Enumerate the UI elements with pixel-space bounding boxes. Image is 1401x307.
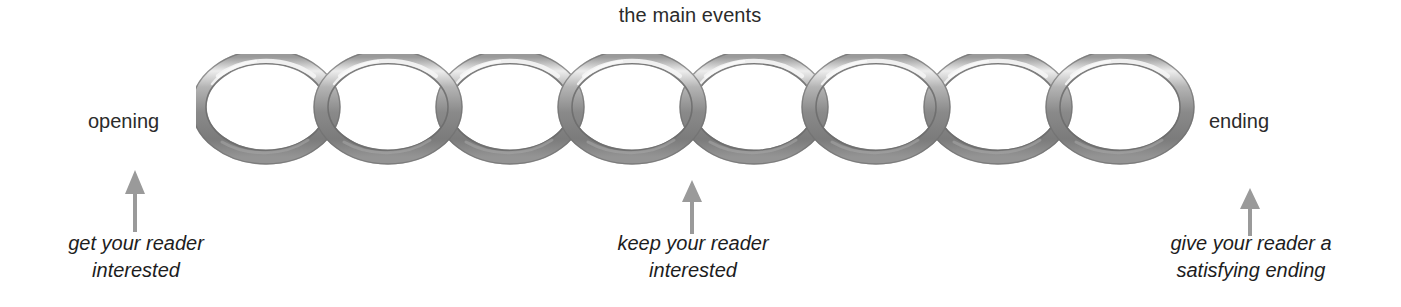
diagram-canvas: the main events opening ending: [0, 0, 1401, 307]
label-opening: opening: [88, 110, 159, 133]
label-ending: ending: [1209, 110, 1269, 133]
annotation-line-2: satisfying ending: [1150, 257, 1352, 284]
arrow-up-opening: [112, 168, 158, 234]
annotation-line-1: get your reader: [42, 230, 230, 257]
annotation-opening-note: get your reader interested: [42, 230, 230, 284]
annotation-line-1: give your reader a: [1150, 230, 1352, 257]
annotation-middle-note: keep your reader interested: [598, 230, 788, 284]
diagram-title: the main events: [0, 4, 1380, 27]
annotation-line-1: keep your reader: [598, 230, 788, 257]
annotation-line-2: interested: [42, 257, 230, 284]
annotation-line-2: interested: [598, 257, 788, 284]
arrow-up-middle: [669, 178, 715, 236]
chain-graphic: [196, 54, 1196, 184]
annotation-ending-note: give your reader a satisfying ending: [1150, 230, 1352, 284]
